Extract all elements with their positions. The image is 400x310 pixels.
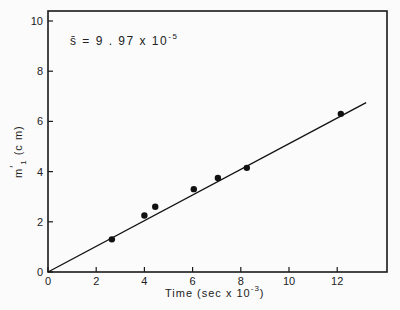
y-axis-label: m′1(c m)	[8, 125, 28, 178]
x-tick-label: 10	[283, 275, 295, 287]
data-point	[152, 204, 158, 210]
data-point	[215, 175, 221, 181]
x-tick-label: 12	[331, 275, 343, 287]
plot-frame	[48, 11, 387, 272]
y-tick-label: 10	[31, 15, 43, 27]
y-tick-label: 0	[37, 266, 43, 278]
x-axis-ticks: 024681012	[45, 267, 343, 287]
x-tick-label: 2	[93, 275, 99, 287]
svg-text:m′1(c m): m′1(c m)	[8, 125, 28, 178]
x-tick-label: 6	[190, 275, 196, 287]
data-point	[109, 236, 115, 242]
fit-line	[48, 103, 366, 272]
annotation-s-bar: s̄ = 9 . 97 x 10-5	[70, 32, 178, 48]
data-point	[244, 165, 250, 171]
y-tick-label: 6	[37, 115, 43, 127]
data-point	[338, 111, 344, 117]
x-tick-label: 8	[238, 275, 244, 287]
data-point	[141, 212, 147, 218]
y-tick-label: 2	[37, 216, 43, 228]
y-tick-label: 8	[37, 65, 43, 77]
y-tick-label: 4	[37, 166, 43, 178]
data-point	[191, 186, 197, 192]
chart: 024681012 0246810 s̄ = 9 . 97 x 10-5 Tim…	[0, 0, 400, 310]
x-tick-label: 0	[45, 275, 51, 287]
y-axis-ticks: 0246810	[31, 15, 53, 278]
x-tick-label: 4	[141, 275, 147, 287]
x-axis-label: Time (sec x 10-3)	[165, 284, 265, 299]
